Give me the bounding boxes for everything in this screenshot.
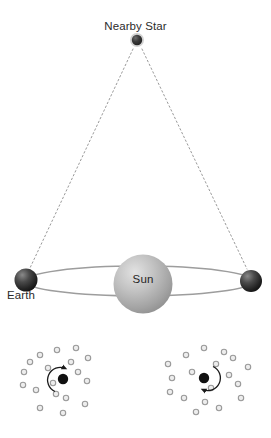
parallax-diagram: Nearby Star Earth Sun xyxy=(0,0,271,438)
nearby-star-dot xyxy=(132,35,142,45)
inset-view-from-earth-position-2 xyxy=(165,345,250,414)
earth-sphere-position-2 xyxy=(240,270,262,292)
diagram-canvas xyxy=(0,0,271,438)
target-star-left xyxy=(58,374,68,384)
sight-line-left xyxy=(30,49,133,268)
sun-label: Sun xyxy=(116,274,170,286)
field-stars-left xyxy=(20,345,90,415)
nearby-star-label: Nearby Star xyxy=(0,21,271,33)
inset-view-from-earth-position-1 xyxy=(20,345,90,415)
earth-label: Earth xyxy=(7,290,35,302)
sight-line-right xyxy=(142,49,247,269)
target-star-right xyxy=(199,373,209,383)
sight-lines xyxy=(30,49,247,269)
